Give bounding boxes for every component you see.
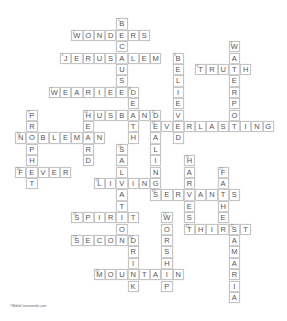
crossword-cell[interactable]: T <box>26 178 37 189</box>
crossword-cell[interactable]: N <box>251 121 262 132</box>
crossword-cell[interactable]: R <box>229 269 240 280</box>
crossword-cell[interactable]: N <box>150 167 161 178</box>
crossword-cell[interactable]: H <box>240 64 251 75</box>
crossword-cell[interactable]: 22T <box>184 224 195 235</box>
crossword-cell[interactable]: R <box>128 30 139 41</box>
crossword-cell[interactable]: 11D <box>150 110 161 121</box>
crossword-cell[interactable]: L <box>49 132 60 143</box>
crossword-cell[interactable]: 17F <box>218 167 229 178</box>
crossword-cell[interactable]: 15H <box>184 155 195 166</box>
crossword-cell[interactable]: 8D <box>128 87 139 98</box>
crossword-cell[interactable]: O <box>105 269 116 280</box>
crossword-cell[interactable]: M <box>229 246 240 257</box>
crossword-cell[interactable]: R <box>229 87 240 98</box>
crossword-cell[interactable]: D <box>173 132 184 143</box>
crossword-cell[interactable]: I <box>161 269 172 280</box>
crossword-cell[interactable]: 20S <box>71 212 82 223</box>
crossword-cell[interactable]: I <box>128 178 139 189</box>
crossword-cell[interactable]: 12E <box>150 121 161 132</box>
crossword-cell[interactable]: V <box>116 178 127 189</box>
crossword-cell[interactable]: 19S <box>150 189 161 200</box>
crossword-cell[interactable]: P <box>26 144 37 155</box>
crossword-cell[interactable]: S <box>161 246 172 257</box>
crossword-cell[interactable]: E <box>116 87 127 98</box>
crossword-cell[interactable]: L <box>173 75 184 86</box>
crossword-cell[interactable]: 24D <box>128 235 139 246</box>
crossword-cell[interactable]: T <box>116 201 127 212</box>
crossword-cell[interactable]: R <box>218 224 229 235</box>
crossword-cell[interactable]: C <box>116 41 127 52</box>
crossword-cell[interactable]: I <box>128 258 139 269</box>
crossword-cell[interactable]: S <box>184 212 195 223</box>
crossword-cell[interactable]: E <box>128 98 139 109</box>
crossword-cell[interactable]: 16F <box>15 167 26 178</box>
crossword-cell[interactable]: O <box>116 224 127 235</box>
crossword-cell[interactable]: I <box>94 87 105 98</box>
crossword-cell[interactable]: S <box>105 53 116 64</box>
crossword-cell[interactable]: 25M <box>94 269 105 280</box>
crossword-cell[interactable]: N <box>128 269 139 280</box>
crossword-cell[interactable]: O <box>161 224 172 235</box>
crossword-cell[interactable]: A <box>218 178 229 189</box>
crossword-cell[interactable]: L <box>150 144 161 155</box>
crossword-cell[interactable]: V <box>38 167 49 178</box>
crossword-cell[interactable]: R <box>184 178 195 189</box>
crossword-cell[interactable]: 18L <box>94 178 105 189</box>
crossword-cell[interactable]: S <box>105 110 116 121</box>
crossword-cell[interactable]: A <box>206 121 217 132</box>
crossword-cell[interactable]: O <box>229 110 240 121</box>
crossword-cell[interactable]: R <box>60 167 71 178</box>
crossword-cell[interactable]: A <box>116 155 127 166</box>
crossword-cell[interactable]: 9P <box>26 110 37 121</box>
crossword-cell[interactable]: D <box>105 30 116 41</box>
crossword-cell[interactable]: T <box>218 189 229 200</box>
crossword-cell[interactable]: M <box>71 132 82 143</box>
crossword-cell[interactable]: S <box>229 189 240 200</box>
crossword-cell[interactable]: A <box>184 167 195 178</box>
crossword-cell[interactable]: 4J <box>60 53 71 64</box>
crossword-cell[interactable]: P <box>161 281 172 292</box>
crossword-cell[interactable]: I <box>94 212 105 223</box>
crossword-cell[interactable]: O <box>26 132 37 143</box>
crossword-cell[interactable]: E <box>173 64 184 75</box>
crossword-cell[interactable]: M <box>150 53 161 64</box>
crossword-cell[interactable]: R <box>83 87 94 98</box>
crossword-cell[interactable]: 7W <box>49 87 60 98</box>
crossword-cell[interactable]: A <box>83 132 94 143</box>
crossword-cell[interactable]: H <box>218 201 229 212</box>
crossword-cell[interactable]: 6T <box>195 64 206 75</box>
crossword-cell[interactable]: E <box>26 167 37 178</box>
crossword-cell[interactable]: A <box>229 53 240 64</box>
crossword-cell[interactable]: V <box>184 189 195 200</box>
crossword-cell[interactable]: A <box>150 132 161 143</box>
crossword-cell[interactable]: A <box>150 269 161 280</box>
crossword-cell[interactable]: T <box>229 121 240 132</box>
crossword-cell[interactable]: E <box>161 189 172 200</box>
crossword-cell[interactable]: P <box>83 212 94 223</box>
crossword-cell[interactable]: A <box>229 258 240 269</box>
crossword-cell[interactable]: 13N <box>15 132 26 143</box>
crossword-cell[interactable]: B <box>116 110 127 121</box>
crossword-cell[interactable]: N <box>206 189 217 200</box>
crossword-cell[interactable]: 10H <box>83 110 94 121</box>
crossword-cell[interactable]: R <box>173 189 184 200</box>
crossword-cell[interactable]: 5B <box>173 53 184 64</box>
crossword-cell[interactable]: S <box>218 121 229 132</box>
crossword-cell[interactable]: U <box>116 269 127 280</box>
crossword-cell[interactable]: N <box>116 235 127 246</box>
crossword-cell[interactable]: E <box>184 201 195 212</box>
crossword-cell[interactable]: 22S <box>229 224 240 235</box>
crossword-cell[interactable]: R <box>83 144 94 155</box>
crossword-cell[interactable]: R <box>161 235 172 246</box>
crossword-cell[interactable]: I <box>240 121 251 132</box>
crossword-cell[interactable]: R <box>26 121 37 132</box>
crossword-cell[interactable]: U <box>218 64 229 75</box>
crossword-cell[interactable]: 2W <box>71 30 82 41</box>
crossword-cell[interactable]: E <box>229 75 240 86</box>
crossword-cell[interactable]: R <box>206 64 217 75</box>
crossword-cell[interactable]: E <box>139 53 150 64</box>
crossword-cell[interactable]: I <box>206 224 217 235</box>
crossword-cell[interactable]: N <box>94 30 105 41</box>
crossword-cell[interactable]: T <box>229 64 240 75</box>
crossword-cell[interactable]: 14S <box>116 144 127 155</box>
